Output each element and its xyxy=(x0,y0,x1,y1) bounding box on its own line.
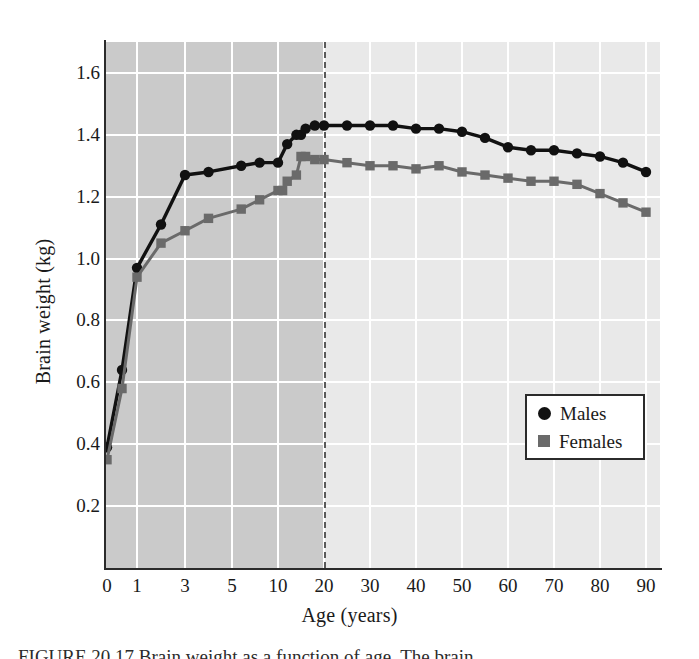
y-tick-label-1.6: 1.6 xyxy=(38,63,100,82)
data-point-males-26 xyxy=(595,151,605,161)
data-point-males-17 xyxy=(388,120,398,130)
data-point-females-2 xyxy=(132,272,141,281)
data-point-males-22 xyxy=(503,142,513,152)
data-point-males-24 xyxy=(549,145,559,155)
x-tick-label-1: 1 xyxy=(132,576,142,596)
data-point-females-14 xyxy=(310,155,319,164)
data-point-males-25 xyxy=(572,148,582,158)
data-point-males-8 xyxy=(273,157,283,167)
x-tick-label-3: 3 xyxy=(180,576,190,596)
data-point-males-27 xyxy=(618,157,628,167)
legend-item-males: Males xyxy=(538,400,606,426)
data-point-males-9 xyxy=(282,139,292,149)
data-point-females-6 xyxy=(237,204,246,213)
legend-item-females: Females xyxy=(538,428,622,454)
figure-caption: FIGURE 20.17 Brain weight as a function … xyxy=(18,646,688,659)
circle-marker-icon xyxy=(538,407,551,420)
x-tick-label-5: 5 xyxy=(227,576,237,596)
legend-label-males: Males xyxy=(560,404,606,423)
data-point-females-11 xyxy=(292,170,301,179)
data-point-females-15 xyxy=(319,155,328,164)
x-tick-label-70: 70 xyxy=(545,576,564,596)
data-point-females-24 xyxy=(526,177,535,186)
x-tick-label-20: 20 xyxy=(315,576,334,596)
data-point-females-17 xyxy=(365,161,374,170)
data-point-males-15 xyxy=(342,120,352,130)
y-tick-label-0.2: 0.2 xyxy=(38,496,100,515)
chart-legend: Males Females xyxy=(525,394,645,460)
data-point-females-20 xyxy=(434,161,443,170)
x-tick-label-10: 10 xyxy=(269,576,288,596)
x-tick-label-0: 0 xyxy=(102,576,112,596)
data-point-females-28 xyxy=(618,198,627,207)
data-point-females-27 xyxy=(595,189,604,198)
x-tick-label-60: 60 xyxy=(499,576,518,596)
data-point-males-23 xyxy=(526,145,536,155)
data-point-males-7 xyxy=(254,157,264,167)
data-point-females-7 xyxy=(255,195,264,204)
data-point-females-23 xyxy=(503,173,512,182)
y-axis-title: Brain weight (kg) xyxy=(32,172,55,452)
data-point-females-21 xyxy=(457,167,466,176)
x-tick-label-80: 80 xyxy=(591,576,610,596)
data-point-females-0 xyxy=(106,455,112,464)
data-point-females-9 xyxy=(278,186,287,195)
data-point-males-18 xyxy=(411,123,421,133)
data-point-females-13 xyxy=(301,152,310,161)
data-point-males-19 xyxy=(434,123,444,133)
square-marker-icon xyxy=(538,435,550,447)
data-series-layer xyxy=(106,42,660,568)
data-point-females-5 xyxy=(204,214,213,223)
legend-label-females: Females xyxy=(559,432,622,451)
data-point-males-28 xyxy=(641,167,651,177)
data-point-males-16 xyxy=(365,120,375,130)
x-tick-label-50: 50 xyxy=(453,576,472,596)
data-point-males-12 xyxy=(300,123,310,133)
data-point-females-29 xyxy=(641,207,650,216)
data-point-males-4 xyxy=(180,170,190,180)
data-point-females-22 xyxy=(480,170,489,179)
figure-brain-weight-vs-age: 0.20.40.60.81.01.21.41.6 Brain weight (k… xyxy=(0,0,699,659)
y-axis-line xyxy=(104,40,106,570)
data-point-females-4 xyxy=(180,226,189,235)
data-point-females-18 xyxy=(388,161,397,170)
data-point-males-13 xyxy=(310,120,320,130)
x-tick-label-30: 30 xyxy=(361,576,380,596)
data-point-males-5 xyxy=(203,167,213,177)
x-tick-label-40: 40 xyxy=(407,576,426,596)
data-point-males-3 xyxy=(156,219,166,229)
data-point-females-3 xyxy=(156,238,165,247)
data-point-females-19 xyxy=(411,164,420,173)
x-axis-title: Age (years) xyxy=(0,604,699,627)
data-point-males-20 xyxy=(457,127,467,137)
data-point-females-10 xyxy=(283,177,292,186)
data-point-males-14 xyxy=(319,120,329,130)
x-tick-label-90: 90 xyxy=(637,576,656,596)
plot-area xyxy=(106,42,660,568)
data-point-females-1 xyxy=(117,384,126,393)
data-point-males-21 xyxy=(480,133,490,143)
data-point-females-26 xyxy=(572,180,581,189)
x-axis-line xyxy=(104,568,662,570)
data-point-females-16 xyxy=(342,158,351,167)
data-point-females-25 xyxy=(549,177,558,186)
data-point-males-6 xyxy=(236,161,246,171)
y-tick-label-1.4: 1.4 xyxy=(38,125,100,144)
